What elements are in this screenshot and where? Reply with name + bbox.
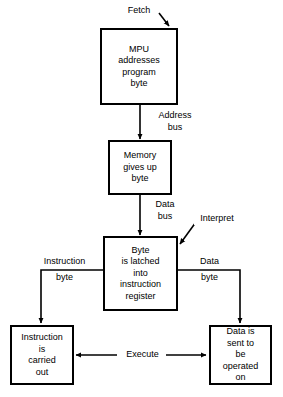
node-text-line: operated [223, 361, 259, 373]
node-text-line: on [235, 372, 245, 384]
node-text-line: be [235, 349, 245, 361]
data-byte-label-line1: Data [192, 256, 227, 268]
node-text-line: into [133, 268, 148, 280]
fetch-arrow [159, 13, 169, 26]
node-text-line: byte [131, 173, 148, 185]
interpret-arrow [180, 222, 196, 244]
address-bus-label-line1: Address [158, 110, 191, 120]
data-bus-label: Data bus [148, 199, 182, 222]
data-bus-label-line1: Data [155, 199, 174, 209]
node-text-line: Instruction [21, 332, 63, 344]
node-text-line: register [125, 291, 155, 303]
memory-gives-up-byte-box: Memory gives up byte [108, 140, 172, 195]
node-text-line: byte [130, 78, 147, 90]
node-text-line: carried [28, 355, 56, 367]
data-is-sent-to-be-operated-on-box: Data is sent to be operated on [209, 325, 272, 385]
interpret-label: Interpret [194, 213, 240, 225]
execute-label: Execute [119, 349, 166, 361]
address-bus-label: Address bus [152, 110, 198, 133]
mpu-addresses-program-byte-box: MPU addresses program byte [100, 28, 178, 105]
flowchart-canvas: MPU addresses program byte Memory gives … [0, 0, 283, 397]
fetch-label: Fetch [120, 5, 158, 17]
instruction-byte-label-line2: byte [47, 272, 82, 284]
node-text-line: Byte [131, 245, 149, 257]
node-text-line: addresses [118, 55, 160, 67]
node-text-line: program [122, 67, 156, 79]
node-text-line: is [39, 344, 46, 356]
node-text-line: Memory [124, 150, 157, 162]
node-text-line: sent to [227, 338, 254, 350]
node-text-line: out [36, 367, 49, 379]
byte-latched-into-instruction-register-box: Byte is latched into instruction registe… [103, 236, 178, 311]
node-text-line: is latched [121, 256, 159, 268]
instruction-byte-label-line1: Instruction [35, 256, 94, 268]
data-bus-label-line2: bus [158, 211, 173, 221]
data-byte-label-line2: byte [192, 272, 227, 284]
node-text-line: MPU [129, 44, 149, 56]
node-text-line: Data is [226, 326, 254, 338]
instruction-is-carried-out-box: Instruction is carried out [10, 325, 74, 385]
node-text-line: instruction [120, 279, 161, 291]
node-text-line: gives up [123, 162, 157, 174]
address-bus-label-line2: bus [168, 122, 183, 132]
